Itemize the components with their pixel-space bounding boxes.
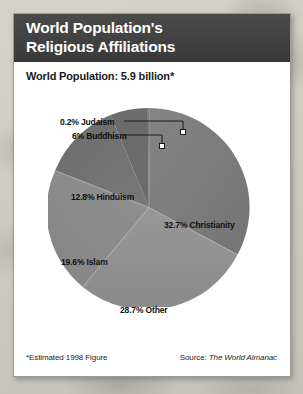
slice-label-buddhism: 6% Buddhism (72, 131, 127, 141)
slice-label-other: 28.7% Other (120, 305, 167, 315)
slice-label-christianity: 32.7% Christianity (164, 220, 235, 230)
source-name: The World Almanac (209, 353, 277, 362)
page-title: World Population's Religious Affiliation… (26, 18, 276, 56)
chart-subtitle: World Population: 5.9 billion* (26, 70, 174, 82)
slice-label-islam: 19.6% Islam (61, 257, 108, 267)
source-prefix: Source: (180, 353, 209, 362)
slice-label-judaism: 0.2% Judaism (60, 117, 114, 127)
source-attribution: Source: The World Almanac (180, 353, 277, 362)
footnote: *Estimated 1998 Figure (26, 353, 107, 362)
infographic-card: World Population's Religious Affiliation… (13, 13, 291, 377)
pie-chart: 0.2% Judaism 6% Buddhism 12.8% Hinduism … (14, 89, 290, 339)
slice-label-hinduism: 12.8% Hinduism (71, 192, 134, 202)
card-header: World Population's Religious Affiliation… (14, 14, 290, 64)
